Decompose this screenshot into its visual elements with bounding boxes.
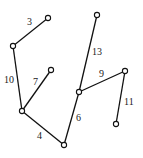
edge-weight-label: 13	[92, 46, 102, 57]
node-f	[76, 89, 81, 94]
edge-weight-label: 4	[37, 130, 42, 141]
edge-weight-label: 6	[76, 112, 81, 123]
node-i	[113, 121, 118, 126]
edge-weight-label: 11	[124, 96, 134, 107]
edge-weight-label: 10	[4, 74, 14, 85]
edge-weight-label: 7	[33, 76, 38, 87]
node-g	[94, 12, 99, 17]
node-h	[122, 68, 127, 73]
node-c	[48, 67, 53, 72]
edge-d-e	[22, 111, 64, 145]
node-b	[10, 43, 15, 48]
node-e	[61, 142, 66, 147]
edge-weight-label: 3	[27, 16, 32, 27]
node-d	[19, 108, 24, 113]
edges	[13, 15, 125, 145]
edge-weight-label: 9	[99, 68, 104, 79]
edge-b-d	[13, 46, 22, 111]
node-a	[45, 15, 50, 20]
weighted-tree-diagram: 31074613911	[0, 0, 143, 158]
